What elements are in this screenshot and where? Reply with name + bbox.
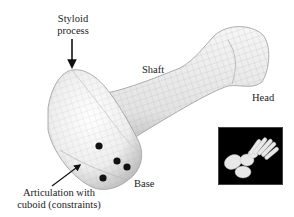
constraint-point (99, 174, 106, 181)
constraint-point (113, 157, 120, 164)
label-articulation-line2: cuboid (constraints) (4, 199, 114, 211)
label-base: Base (134, 178, 154, 190)
figure-canvas: Styloid process Shaft Head Base Articula… (0, 0, 294, 217)
constraint-point (95, 142, 102, 149)
foot-skeleton-icon (219, 128, 282, 184)
label-shaft: Shaft (142, 64, 164, 76)
constraint-point (123, 163, 130, 170)
label-styloid-line2: process (52, 25, 94, 37)
label-articulation-line1: Articulation with (4, 187, 114, 199)
foot-skeleton-inset (218, 127, 283, 185)
label-articulation: Articulation with cuboid (constraints) (4, 187, 114, 211)
label-head: Head (252, 92, 274, 104)
label-styloid-process: Styloid process (52, 13, 94, 37)
label-styloid-line1: Styloid (52, 13, 94, 25)
